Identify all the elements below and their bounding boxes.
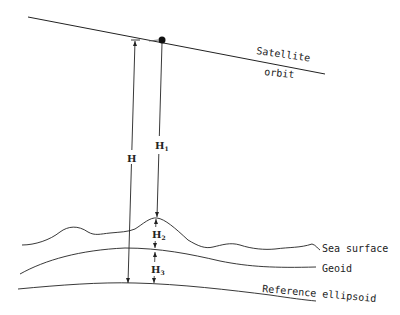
geoid-curve: [20, 248, 316, 274]
H-bottom-arrowhead: [126, 278, 130, 283]
sea-surface-curve: [22, 218, 320, 250]
reference-ellipsoid-label: Reference ellipsoid: [262, 283, 377, 304]
geoid-label: Geoid: [322, 263, 352, 274]
sea-surface-label: Sea surface: [322, 243, 388, 254]
satellite-orbit-label-line1: Satellite: [256, 45, 311, 63]
H-top-arrowhead: [133, 41, 137, 46]
H-label: H: [127, 153, 136, 164]
H2-top-arrowhead: [154, 219, 158, 224]
altimetry-diagram: H H1 Sea surface H2 Geoid H3 Reference e…: [0, 0, 400, 315]
H1-arrow-line: [157, 43, 162, 217]
satellite-orbit-line: [28, 17, 325, 74]
satellite-orbit-label-line2: orbit: [264, 66, 295, 80]
H3-top-arrowhead: [153, 252, 157, 257]
satellite-icon: [159, 37, 166, 44]
H3-bottom-arrowhead: [152, 278, 156, 283]
H1-bottom-arrowhead: [155, 212, 159, 217]
H2-bottom-arrowhead: [153, 243, 157, 248]
